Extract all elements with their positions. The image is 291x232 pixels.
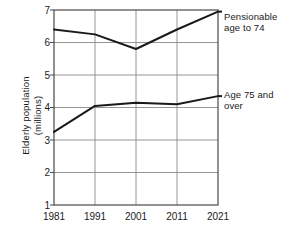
x-tick-2021: 2021	[198, 212, 238, 222]
y-tick-2: 2	[34, 168, 50, 178]
y-tick-5: 5	[34, 71, 50, 81]
series-label-pensionable: Pensionableage to 74	[224, 11, 277, 33]
series-lines	[54, 12, 222, 132]
series-label-age75-line2: over	[224, 100, 243, 111]
x-tick-1981: 1981	[34, 212, 74, 222]
y-tick-4: 4	[34, 103, 50, 113]
plot-area	[0, 0, 291, 232]
x-tick-1991: 1991	[75, 212, 115, 222]
y-tick-7: 7	[34, 6, 50, 16]
y-tick-1: 1	[34, 201, 50, 211]
series-label-pensionable-line1: Pensionable	[224, 11, 277, 22]
y-tick-3: 3	[34, 136, 50, 146]
series-label-age75-line1: Age 75 and	[224, 89, 274, 100]
x-tick-2011: 2011	[157, 212, 197, 222]
elderly-population-line-chart: Elderly population (millions) 7 6 5 4 3 …	[0, 0, 291, 232]
gridlines	[54, 10, 218, 205]
series-label-pensionable-line2: age to 74	[224, 22, 265, 33]
x-tick-2001: 2001	[116, 212, 156, 222]
series-label-age75: Age 75 andover	[224, 89, 274, 111]
y-tick-6: 6	[34, 38, 50, 48]
